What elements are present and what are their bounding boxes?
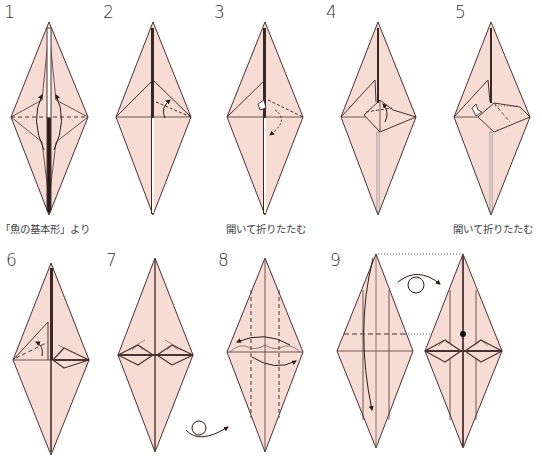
step-1-diagram	[11, 22, 88, 215]
turn-over-icon	[398, 274, 440, 293]
step-9-diagram-front	[337, 254, 413, 448]
step-6-diagram	[13, 263, 89, 455]
turn-over-icon	[186, 421, 228, 437]
step-5-diagram	[454, 22, 530, 215]
step-4-diagram	[341, 22, 416, 215]
step-8-diagram	[227, 258, 303, 452]
step-3-diagram	[227, 22, 303, 215]
origami-diagram-canvas	[0, 0, 542, 468]
step-7-diagram	[118, 258, 193, 452]
reference-dot	[460, 331, 466, 337]
step-9-diagram-back	[425, 254, 502, 448]
step-2-diagram	[116, 22, 191, 215]
